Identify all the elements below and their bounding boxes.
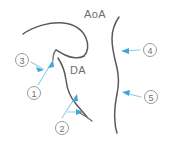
arrow-head-4	[121, 48, 129, 54]
aortic-isthmus-segment	[53, 50, 56, 60]
marker-4-label: 4	[147, 46, 152, 56]
marker-2[interactable]: 2	[56, 122, 69, 135]
marker-1-label: 1	[31, 89, 36, 99]
marker-5[interactable]: 5	[145, 91, 158, 104]
aortic-arch-inferior-wall	[56, 50, 84, 58]
marker-4[interactable]: 4	[144, 44, 157, 57]
marker-5-label: 5	[148, 93, 153, 103]
ductus-arteriosus-label: DA	[70, 64, 86, 76]
annotation-leaders-group	[31, 48, 141, 118]
anatomical-diagram-svg: AoA DA 3 1 2 4 5	[0, 0, 174, 143]
marker-3[interactable]: 3	[16, 54, 29, 67]
marker-2-label: 2	[59, 124, 64, 134]
marker-3-label: 3	[19, 56, 24, 66]
arrow-head-1	[48, 60, 54, 68]
marker-1[interactable]: 1	[28, 87, 41, 100]
aortic-arch-label: AoA	[84, 8, 106, 20]
arrow-head-2a	[72, 94, 78, 102]
anatomy-label-group: AoA DA	[70, 8, 106, 76]
arrow-head-5	[122, 90, 130, 96]
figure-panel: AoA DA 3 1 2 4 5	[0, 0, 174, 143]
descending-aorta-wall	[112, 17, 119, 133]
marker-group: 3 1 2 4 5	[16, 44, 158, 135]
